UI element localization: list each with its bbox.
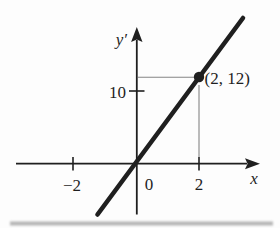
x-tick-label-2: 2 — [195, 175, 204, 194]
origin-label: 0 — [145, 175, 154, 194]
y-axis-arrowhead — [131, 27, 142, 42]
y-axis-label: y′ — [114, 30, 128, 49]
x-axis-arrowhead — [245, 158, 260, 169]
graph-canvas: y′ x 10 −2 0 2 (2, 12) — [0, 0, 280, 228]
y-tick-label-10: 10 — [109, 83, 126, 102]
point-label: (2, 12) — [205, 69, 250, 88]
x-axis-label: x — [249, 169, 258, 188]
scan-artifact-band — [10, 222, 273, 226]
point-marker — [194, 72, 204, 82]
x-tick-label-neg2: −2 — [63, 176, 81, 195]
derivative-line-graph-figure: y′ x 10 −2 0 2 (2, 12) — [0, 0, 280, 228]
